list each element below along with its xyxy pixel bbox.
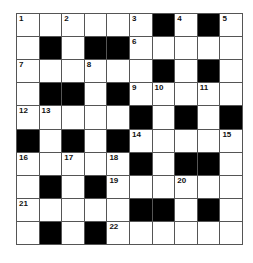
answer-cell[interactable]: 2 (62, 14, 84, 36)
answer-cell[interactable]: 21 (17, 199, 39, 221)
answer-cell[interactable]: 5 (220, 14, 242, 36)
answer-cell[interactable] (175, 83, 197, 105)
answer-cell[interactable] (175, 222, 197, 244)
clue-number: 8 (87, 61, 91, 69)
block-cell (40, 37, 62, 59)
answer-cell[interactable]: 8 (85, 60, 107, 82)
answer-cell[interactable] (220, 60, 242, 82)
answer-cell[interactable] (85, 14, 107, 36)
answer-cell[interactable] (153, 176, 175, 198)
answer-cell[interactable] (85, 199, 107, 221)
answer-cell[interactable] (153, 106, 175, 128)
block-cell (85, 176, 107, 198)
clue-number: 3 (132, 15, 136, 23)
block-cell (175, 153, 197, 175)
block-cell (107, 37, 129, 59)
answer-cell[interactable]: 7 (17, 60, 39, 82)
answer-cell[interactable] (85, 130, 107, 152)
answer-cell[interactable]: 6 (130, 37, 152, 59)
answer-cell[interactable] (62, 106, 84, 128)
answer-cell[interactable]: 22 (107, 222, 129, 244)
block-cell (153, 60, 175, 82)
answer-cell[interactable] (175, 130, 197, 152)
answer-cell[interactable] (175, 60, 197, 82)
block-cell (130, 106, 152, 128)
answer-cell[interactable] (107, 106, 129, 128)
answer-cell[interactable] (107, 14, 129, 36)
answer-cell[interactable] (153, 130, 175, 152)
answer-cell[interactable] (40, 130, 62, 152)
answer-cell[interactable] (40, 60, 62, 82)
answer-cell[interactable]: 18 (107, 153, 129, 175)
answer-cell[interactable] (153, 222, 175, 244)
block-cell (198, 14, 220, 36)
answer-cell[interactable] (40, 14, 62, 36)
answer-cell[interactable]: 17 (62, 153, 84, 175)
clue-number: 22 (109, 223, 118, 231)
answer-cell[interactable] (153, 153, 175, 175)
answer-cell[interactable] (85, 106, 107, 128)
block-cell (85, 37, 107, 59)
answer-cell[interactable] (107, 60, 129, 82)
answer-cell[interactable]: 12 (17, 106, 39, 128)
answer-cell[interactable]: 16 (17, 153, 39, 175)
answer-cell[interactable] (40, 153, 62, 175)
block-cell (175, 106, 197, 128)
answer-cell[interactable] (220, 37, 242, 59)
answer-cell[interactable]: 4 (175, 14, 197, 36)
clue-number: 15 (222, 131, 231, 139)
block-cell (153, 199, 175, 221)
block-cell (198, 199, 220, 221)
answer-cell[interactable] (198, 222, 220, 244)
answer-cell[interactable] (17, 222, 39, 244)
answer-cell[interactable]: 9 (130, 83, 152, 105)
answer-cell[interactable] (62, 199, 84, 221)
answer-cell[interactable]: 10 (153, 83, 175, 105)
answer-cell[interactable] (62, 37, 84, 59)
answer-cell[interactable] (198, 106, 220, 128)
answer-cell[interactable] (17, 176, 39, 198)
answer-cell[interactable] (198, 130, 220, 152)
clue-number: 1 (19, 15, 23, 23)
answer-cell[interactable]: 20 (175, 176, 197, 198)
answer-cell[interactable] (153, 37, 175, 59)
answer-cell[interactable] (85, 153, 107, 175)
answer-cell[interactable] (85, 83, 107, 105)
answer-cell[interactable] (62, 222, 84, 244)
block-cell (130, 153, 152, 175)
clue-number: 6 (132, 38, 136, 46)
answer-cell[interactable]: 1 (17, 14, 39, 36)
answer-cell[interactable] (198, 176, 220, 198)
answer-cell[interactable] (130, 60, 152, 82)
answer-cell[interactable] (220, 83, 242, 105)
clue-number: 19 (109, 177, 118, 185)
answer-cell[interactable]: 13 (40, 106, 62, 128)
answer-cell[interactable]: 11 (198, 83, 220, 105)
answer-cell[interactable] (130, 222, 152, 244)
answer-cell[interactable] (220, 153, 242, 175)
answer-cell[interactable]: 15 (220, 130, 242, 152)
answer-cell[interactable] (17, 37, 39, 59)
answer-cell[interactable]: 3 (130, 14, 152, 36)
crossword-grid: 12345678910111213141516171819202122 (16, 13, 243, 245)
clue-number: 13 (42, 107, 51, 115)
answer-cell[interactable]: 14 (130, 130, 152, 152)
answer-cell[interactable] (175, 37, 197, 59)
answer-cell[interactable] (175, 199, 197, 221)
answer-cell[interactable] (198, 37, 220, 59)
clue-number: 7 (19, 61, 23, 69)
answer-cell[interactable]: 19 (107, 176, 129, 198)
answer-cell[interactable] (107, 199, 129, 221)
answer-cell[interactable] (62, 176, 84, 198)
block-cell (62, 130, 84, 152)
answer-cell[interactable] (130, 176, 152, 198)
answer-cell[interactable] (17, 83, 39, 105)
answer-cell[interactable] (220, 199, 242, 221)
block-cell (40, 222, 62, 244)
clue-number: 21 (19, 200, 28, 208)
answer-cell[interactable] (220, 176, 242, 198)
answer-cell[interactable] (220, 222, 242, 244)
answer-cell[interactable] (62, 60, 84, 82)
clue-number: 4 (177, 15, 181, 23)
answer-cell[interactable] (40, 199, 62, 221)
